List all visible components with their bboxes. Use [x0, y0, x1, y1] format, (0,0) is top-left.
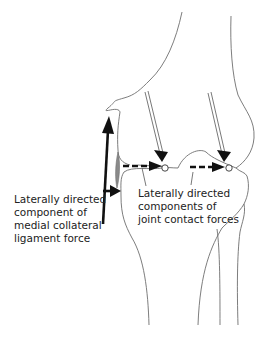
mcl-force-label: Laterally directed component of medial c… [14, 193, 106, 245]
medial-contact-point [162, 165, 168, 171]
label-line: ligament force [14, 232, 106, 245]
joint-contact-force-arrows [145, 91, 225, 154]
knee-illustration [0, 0, 265, 340]
medial-collateral-ligament [116, 152, 120, 188]
femur-outline [106, 12, 254, 168]
knee-diagram: Laterally directed component of medial c… [0, 0, 265, 340]
label-line: Laterally directed [138, 187, 239, 200]
label-line: medial collateral [14, 219, 106, 232]
label-line: Laterally directed [14, 193, 106, 206]
label-line: components of [138, 200, 239, 213]
contact-force-label: Laterally directed components of joint c… [138, 187, 239, 226]
lateral-contact-point [226, 165, 232, 171]
label-line: joint contact forces [138, 213, 239, 226]
label-line: component of [14, 206, 106, 219]
